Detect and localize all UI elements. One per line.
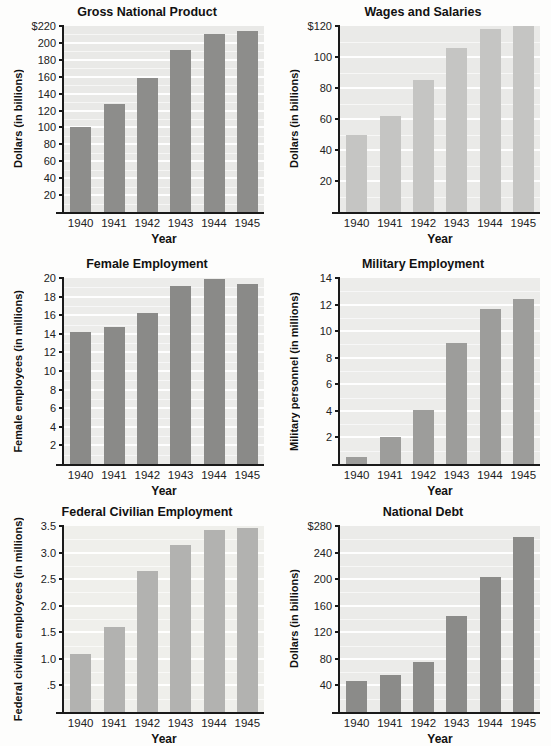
x-tick-label-1943: 1943 [440,469,473,482]
plot-area [340,526,540,712]
y-tick-label: 12 [320,298,332,312]
gridline [64,126,264,128]
chart-body: Dollars (in billions)2040608010012014016… [10,24,270,212]
x-tick-label-1941: 1941 [97,469,130,482]
chart-body: Dollars (in billions)4080120160200240$28… [286,524,546,712]
plot-area [64,526,264,712]
gridline [64,287,264,288]
gridline [64,333,264,335]
gridline [64,380,264,381]
gridline [340,344,540,345]
gridline [64,672,264,673]
y-tick-label: 2.0 [41,599,56,613]
gridline [340,658,540,660]
y-tick-label: 80 [320,652,332,666]
gridline [64,68,264,69]
gridline [340,383,540,385]
y-tick-label: 40 [320,678,332,692]
x-tick-label-1945: 1945 [507,217,540,230]
gridline [64,389,264,391]
gridline [340,318,540,319]
x-tick-label-1944: 1944 [197,469,230,482]
x-tick-label-1943: 1943 [164,717,197,730]
x-tick-label-1943: 1943 [440,217,473,230]
y-tick-label: 14 [44,327,56,341]
bar-1941 [104,327,125,464]
y-tick-label: 18 [44,290,56,304]
x-tick-label-1945: 1945 [231,217,264,230]
gridline [64,658,264,660]
y-tick-label: 14 [320,271,332,285]
y-axis-label-wrap: Female employees (in millions) [10,278,26,464]
gridline [64,455,264,456]
gridline [340,135,540,136]
y-axis-ticks: .51.01.52.02.53.03.5 [26,526,64,712]
y-axis-label: Dollars (in billions) [288,69,300,168]
gridline [64,619,264,620]
x-tick-label-1945: 1945 [507,717,540,730]
chart-body: Military personnel (in millions)24681012… [286,276,546,464]
y-tick-label: 1.5 [41,625,56,639]
bar-1941 [380,116,401,212]
gridline [64,325,264,326]
bar-1945 [513,537,534,712]
chart-gross-national-product: Gross National ProductDollars (in billio… [10,4,270,246]
y-tick-label: 60 [320,112,332,126]
gridline [340,552,540,554]
y-axis-label-wrap: Military personnel (in millions) [286,278,302,464]
gridline [340,451,540,452]
bar-1941 [104,104,125,212]
x-tick-label-1941: 1941 [373,217,406,230]
x-tick-label-1942: 1942 [131,469,164,482]
gridline [64,194,264,196]
bar-1945 [237,31,258,212]
y-axis-line [338,278,340,466]
gridline [64,436,264,437]
gridline [340,42,540,43]
y-tick-label: 240 [314,546,332,560]
bar-1940 [346,681,367,712]
y-tick-label: 140 [38,87,56,101]
gridline [64,102,264,103]
x-axis-ticks: 194019411942194319441945 [340,217,540,230]
bar-1944 [480,309,501,464]
x-tick-label-1940: 1940 [340,469,373,482]
gridline [64,566,264,567]
y-tick-label: 12 [44,345,56,359]
y-tick-label: 4 [50,420,56,434]
y-axis-line [62,26,64,214]
gridline [64,351,264,353]
y-tick-label: 20 [44,188,56,202]
y-axis-label-wrap: Dollars (in billions) [286,526,302,712]
y-tick-label: 100 [38,120,56,134]
gridline [64,306,264,307]
gridline [340,197,540,198]
x-axis-ticks: 194019411942194319441945 [340,469,540,482]
bar-1940 [346,457,367,464]
bar-1942 [137,78,158,212]
gridline [64,552,264,554]
y-axis-ticks: 2468101214161820 [26,278,64,464]
chart-cell-wages-and-salaries: Wages and SalariesDollars (in billions)2… [276,0,551,252]
y-axis-line [62,526,64,714]
gridline [64,93,264,95]
gridline [340,104,540,105]
x-tick-label-1942: 1942 [131,217,164,230]
gridline [64,143,264,145]
gridline [340,118,540,120]
x-tick-label-1941: 1941 [373,469,406,482]
y-tick-label: 2 [326,430,332,444]
y-axis-label: Federal civilian employees (in millions) [12,517,24,721]
x-tick-label-1942: 1942 [407,469,440,482]
gridline [340,398,540,399]
x-tick-label-1942: 1942 [131,717,164,730]
x-axis-line [332,212,540,214]
gridline [64,296,264,298]
bar-1944 [480,29,501,212]
chart-title: Female Employment [10,256,270,272]
chart-cell-gross-national-product: Gross National ProductDollars (in billio… [0,0,276,252]
gridline [64,110,264,112]
y-tick-label: 6 [50,401,56,415]
chart-cell-national-debt: National DebtDollars (in billions)408012… [276,500,551,740]
